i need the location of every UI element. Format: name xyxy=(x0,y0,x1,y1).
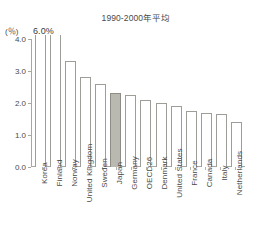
y-tick-label: 1.0 xyxy=(15,131,26,140)
x-label-italy: Italy xyxy=(220,165,229,180)
y-tick xyxy=(28,39,31,40)
x-label-norway: Norway xyxy=(70,159,79,187)
x-label-slot: Korea xyxy=(34,171,45,249)
bar-chart: — — —— — —— ——— —— — 1990-2000年平均 (％) 6.… xyxy=(0,0,272,251)
bar-japan xyxy=(110,93,121,167)
bar-slot xyxy=(156,39,167,167)
bar-slot xyxy=(50,39,61,167)
chart-subtitle: 1990-2000年平均 xyxy=(0,11,272,23)
x-label-slot: Finland xyxy=(49,171,60,249)
x-label-united-kingdom: United Kingdom xyxy=(85,144,94,202)
bar-italy xyxy=(216,114,227,167)
x-label-slot: Germany xyxy=(124,171,135,249)
x-label-korea: Korea xyxy=(40,162,49,184)
y-tick-label: 0.0 xyxy=(15,163,26,172)
bar-norway xyxy=(65,61,76,167)
x-label-denmark: Denmark xyxy=(160,156,169,189)
x-label-slot: Norway xyxy=(64,171,75,249)
clipped-header-text: — — —— — —— ——— —— — xyxy=(2,0,126,3)
y-tick xyxy=(28,103,31,104)
x-label-oecd26: OECD26 xyxy=(145,157,154,190)
bar-slot xyxy=(95,39,106,167)
y-tick-label: 2.0 xyxy=(15,99,26,108)
y-tick xyxy=(28,71,31,72)
bar-france xyxy=(186,111,197,167)
bar-slot xyxy=(35,39,46,167)
x-label-slot: Italy xyxy=(215,171,226,249)
bar-slot xyxy=(65,39,76,167)
plot-area: 4.03.02.01.00.0 xyxy=(31,39,245,167)
x-label-slot: Sweden xyxy=(94,171,105,249)
x-label-slot: France xyxy=(185,171,196,249)
clipped-header-strip: — — —— — —— ——— —— — xyxy=(0,0,272,7)
bar-slot xyxy=(186,39,197,167)
bar-slot xyxy=(110,39,121,167)
x-label-slot: United States xyxy=(170,171,181,249)
x-axis-labels: KoreaFinlandNorwayUnited KingdomSwedenJa… xyxy=(31,171,244,249)
x-label-slot: OECD26 xyxy=(139,171,150,249)
bar-korea xyxy=(35,35,46,167)
x-label-slot: Canada xyxy=(200,171,211,249)
bar-slot xyxy=(201,39,212,167)
y-tick xyxy=(28,135,31,136)
bar-slot xyxy=(125,39,136,167)
bar-slot xyxy=(140,39,151,167)
x-label-netherlands: Netherlands xyxy=(235,151,244,195)
x-label-canada: Canada xyxy=(205,159,214,188)
x-label-slot: Denmark xyxy=(155,171,166,249)
x-label-united-states: United States xyxy=(175,148,184,197)
x-label-finland: Finland xyxy=(55,160,64,187)
y-tick-label: 3.0 xyxy=(15,67,26,76)
x-label-slot: United Kingdom xyxy=(79,171,90,249)
x-label-japan: Japan xyxy=(115,162,124,184)
bar-series xyxy=(32,39,245,167)
y-tick-label: 4.0 xyxy=(15,35,26,44)
x-label-slot: Netherlands xyxy=(230,171,241,249)
x-label-germany: Germany xyxy=(130,156,139,190)
x-label-slot: Japan xyxy=(109,171,120,249)
bar-finland xyxy=(50,35,61,167)
bar-slot xyxy=(231,39,242,167)
bar-sweden xyxy=(95,84,106,167)
x-label-france: France xyxy=(190,160,199,186)
bar-slot xyxy=(216,39,227,167)
x-label-sweden: Sweden xyxy=(100,158,109,188)
